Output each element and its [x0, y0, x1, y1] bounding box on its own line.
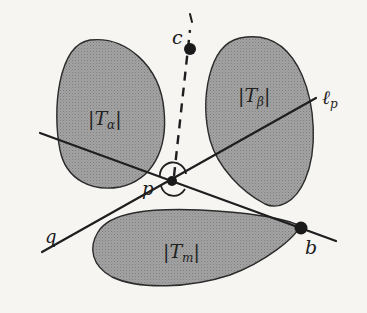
- point-b: [295, 222, 308, 235]
- angle-arc-lower: [161, 186, 185, 196]
- label-line-l-p: ℓp: [322, 86, 338, 111]
- label-point-p: p: [142, 178, 154, 199]
- label-point-b: b: [305, 236, 317, 258]
- label-t-beta: |Tβ|: [238, 84, 270, 109]
- diagram-canvas: |Tα| |Tβ| |Tm| c p b q ℓp: [0, 0, 367, 313]
- label-t-alpha: |Tα|: [88, 107, 122, 132]
- region-t-alpha: [57, 40, 165, 188]
- region-t-beta: [206, 37, 313, 206]
- point-p: [167, 176, 177, 186]
- label-line-q: q: [45, 226, 57, 247]
- label-point-c: c: [172, 26, 183, 48]
- label-t-m: |Tm|: [163, 240, 200, 265]
- tick-mark-c: [190, 14, 192, 22]
- point-c: [184, 43, 196, 55]
